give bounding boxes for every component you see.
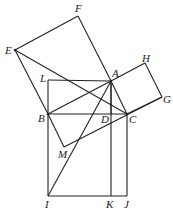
label-M: M — [57, 148, 68, 160]
point-E — [14, 49, 17, 52]
label-F: F — [74, 2, 82, 14]
point-C — [126, 113, 129, 116]
point-B — [47, 113, 50, 116]
geometry-diagram: A B C D E F G H I J K L M — [0, 0, 173, 222]
label-E: E — [4, 44, 12, 56]
label-I: I — [44, 198, 50, 210]
segment-FA — [78, 16, 111, 81]
label-H: H — [141, 52, 151, 64]
segment-EF — [15, 16, 78, 50]
label-D: D — [100, 113, 109, 125]
label-J: J — [124, 198, 130, 210]
label-K: K — [105, 198, 114, 210]
segment-HG — [145, 63, 162, 97]
label-C: C — [129, 113, 137, 125]
point-A — [110, 80, 113, 83]
segments — [15, 16, 162, 196]
segment-MG — [64, 97, 162, 147]
label-B: B — [38, 112, 45, 124]
segment-BM — [48, 114, 64, 147]
label-A: A — [111, 67, 119, 79]
label-G: G — [163, 93, 171, 105]
label-L: L — [39, 72, 46, 84]
segment-LA — [48, 80, 111, 81]
